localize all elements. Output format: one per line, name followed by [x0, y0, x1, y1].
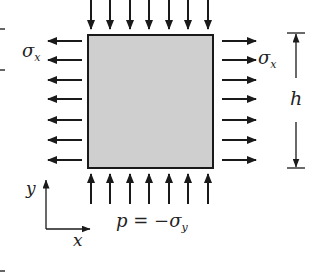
axis-x-label: x [73, 232, 83, 249]
sigma-x-right-label: σx [258, 49, 277, 67]
bottom-compression-arrows [91, 174, 208, 204]
right-tension-arrows [222, 41, 256, 160]
cropped-edge-mark [0, 69, 5, 71]
sigma-x-left-label: σx [22, 42, 41, 60]
plate-stress-diagram [0, 0, 320, 273]
left-tension-arrows [48, 41, 82, 160]
pressure-subscript: y [181, 221, 187, 234]
sigma-symbol: σ [22, 40, 34, 61]
sigma-symbol: σ [258, 47, 270, 68]
sigma-subscript: x [270, 58, 276, 71]
pressure-equation: p = −σ [116, 210, 181, 231]
coordinate-axes [46, 180, 90, 229]
top-compression-arrows [91, 0, 208, 29]
plate-square [88, 35, 213, 168]
cropped-edge-mark [0, 270, 5, 272]
axis-y-label: y [26, 180, 36, 197]
pressure-label: p = −σy [116, 212, 188, 230]
sigma-subscript: x [34, 51, 40, 64]
cropped-edge-mark [0, 28, 5, 30]
height-label: h [290, 89, 302, 108]
